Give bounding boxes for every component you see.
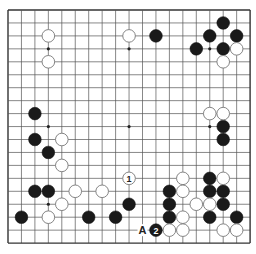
- white-stone: [69, 185, 82, 198]
- black-stone: [203, 172, 216, 185]
- star-point: [208, 125, 211, 128]
- go-board: 12A: [0, 0, 256, 254]
- white-stone: [217, 107, 230, 120]
- black-stone: [42, 185, 55, 198]
- black-stone: [163, 198, 176, 211]
- star-point: [47, 125, 50, 128]
- black-stone: [230, 211, 243, 224]
- black-stone: [203, 30, 216, 43]
- white-stone: [123, 30, 136, 43]
- black-stone: [217, 17, 230, 30]
- black-stone: [190, 43, 203, 56]
- white-stone: [56, 133, 69, 146]
- black-stone: [109, 211, 122, 224]
- white-stone: [177, 185, 190, 198]
- white-stone: [56, 198, 69, 211]
- white-stone: [203, 198, 216, 211]
- white-stone: [56, 159, 69, 172]
- white-stone: [203, 107, 216, 120]
- white-stone: [42, 56, 55, 69]
- black-stone: [230, 30, 243, 43]
- star-point: [127, 125, 130, 128]
- star-point: [127, 47, 130, 50]
- white-stone: [96, 185, 109, 198]
- black-stone: [217, 185, 230, 198]
- black-stone: [203, 211, 216, 224]
- white-stone: [177, 211, 190, 224]
- black-stone: [15, 211, 28, 224]
- white-stone: [190, 198, 203, 211]
- black-stone: [163, 185, 176, 198]
- white-stone: [230, 43, 243, 56]
- white-stone: [42, 211, 55, 224]
- star-point: [208, 47, 211, 50]
- black-stone: [163, 211, 176, 224]
- black-stone: [29, 107, 42, 120]
- black-stone: [217, 133, 230, 146]
- white-stone: [177, 224, 190, 237]
- black-stone: [29, 185, 42, 198]
- white-stone: [217, 224, 230, 237]
- star-point: [47, 203, 50, 206]
- black-stone: [203, 185, 216, 198]
- white-stone: [177, 172, 190, 185]
- move-number-label: 1: [127, 174, 132, 184]
- black-stone: [82, 211, 95, 224]
- white-stone: [230, 224, 243, 237]
- black-stone: [29, 133, 42, 146]
- white-stone: [163, 224, 176, 237]
- move-number-label: 2: [153, 226, 158, 236]
- black-stone: [217, 198, 230, 211]
- white-stone: [42, 30, 55, 43]
- black-stone: [123, 198, 136, 211]
- black-stone: [217, 43, 230, 56]
- white-stone: [217, 56, 230, 69]
- marker-label: A: [139, 224, 147, 236]
- white-stone: [217, 172, 230, 185]
- star-point: [47, 47, 50, 50]
- black-stone: [150, 30, 163, 43]
- black-stone: [42, 146, 55, 159]
- black-stone: [217, 120, 230, 133]
